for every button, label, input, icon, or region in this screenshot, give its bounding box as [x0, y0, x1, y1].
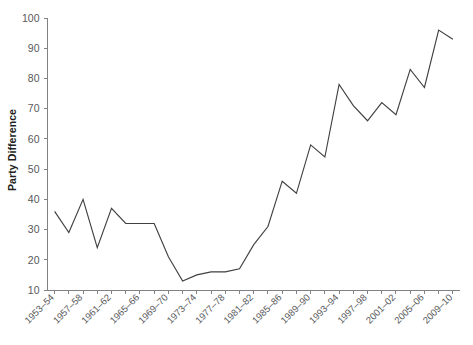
y-tick-label: 90 [28, 42, 40, 54]
x-tick-label: 1961–62 [79, 292, 113, 326]
x-tick-label: 1977–78 [193, 292, 227, 326]
y-tick-label: 70 [28, 102, 40, 114]
y-tick-label: 100 [22, 12, 40, 24]
x-tick-label: 1989–90 [278, 292, 312, 326]
x-tick-label: 1953–54 [22, 292, 56, 326]
y-tick-label: 10 [28, 284, 40, 296]
y-tick-label: 20 [28, 254, 40, 266]
x-tick-label: 2001–02 [363, 292, 397, 326]
y-tick-label: 80 [28, 72, 40, 84]
data-series-line [55, 30, 453, 281]
y-tick-label: 60 [28, 133, 40, 145]
x-tick-label: 1969–70 [136, 292, 170, 326]
x-tick-label: 1957–58 [51, 292, 85, 326]
x-tick-label: 1997–98 [335, 292, 369, 326]
x-tick-label: 1985–86 [250, 292, 284, 326]
chart-figure: Party Difference 102030405060708090100 1… [0, 0, 473, 345]
x-axis-ticks [55, 290, 453, 294]
y-axis-ticks: 102030405060708090100 [22, 12, 48, 296]
x-tick-label: 2005–06 [392, 292, 426, 326]
line-chart-plot: 102030405060708090100 1953–541957–581961… [0, 0, 473, 345]
y-tick-label: 30 [28, 223, 40, 235]
x-tick-label: 2009–10 [420, 292, 454, 326]
x-axis-tick-labels: 1953–541957–581961–621965–661969–701973–… [22, 292, 454, 326]
x-tick-label: 1993–94 [307, 292, 341, 326]
y-tick-label: 50 [28, 163, 40, 175]
x-tick-label: 1973–74 [164, 292, 198, 326]
x-tick-label: 1965–66 [107, 292, 141, 326]
y-tick-label: 40 [28, 193, 40, 205]
x-tick-label: 1981–82 [221, 292, 255, 326]
